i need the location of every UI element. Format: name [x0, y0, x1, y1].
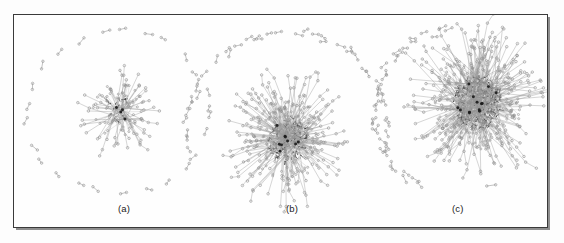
panel-label-a: (a) [118, 203, 130, 214]
panel-label-b: (b) [286, 203, 298, 214]
figure-frame: (a) (b) (c) [13, 14, 548, 228]
network-graph-canvas [14, 15, 547, 227]
panel-label-c: (c) [452, 203, 464, 214]
figure-container: (a) (b) (c) [0, 0, 564, 243]
